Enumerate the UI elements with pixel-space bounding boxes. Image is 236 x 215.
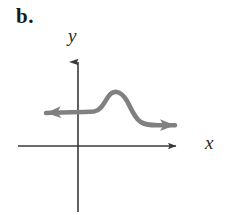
graph-plot-area [0,0,236,215]
function-curve [46,92,175,125]
figure-panel: b. y x [0,0,236,215]
x-axis-label: x [205,133,213,152]
y-axis-label: y [68,26,76,45]
